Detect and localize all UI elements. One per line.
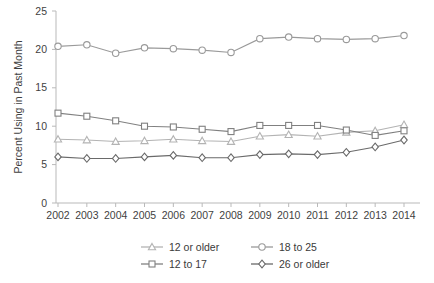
chart-legend: 12 or older18 to 2512 to 1726 or older <box>141 241 330 270</box>
line-chart-figure: 0510152025 20022003200420052006200720082… <box>0 0 434 283</box>
x-tick-label: 2004 <box>104 209 128 221</box>
data-point-square <box>84 113 90 119</box>
data-point-circle <box>314 35 320 41</box>
legend-item[interactable]: 26 or older <box>251 258 330 270</box>
data-point-square <box>343 127 349 133</box>
data-point-square <box>55 110 61 116</box>
data-point-circle <box>343 36 349 42</box>
x-tick-label: 2014 <box>392 209 416 221</box>
x-tick-label: 2010 <box>277 209 301 221</box>
x-tick-label: 2006 <box>162 209 186 221</box>
data-point-square <box>315 122 321 128</box>
data-point-diamond <box>372 143 378 151</box>
x-tick-label: 2012 <box>335 209 359 221</box>
data-point-diamond <box>314 151 320 159</box>
data-point-diamond <box>343 149 349 157</box>
data-point-square <box>199 126 205 132</box>
data-point-square <box>113 118 119 124</box>
data-point-square <box>142 123 148 129</box>
data-point-square <box>149 261 155 267</box>
y-tick-label: 20 <box>35 43 47 55</box>
legend-label: 12 to 17 <box>169 258 207 270</box>
x-tick-label: 2009 <box>248 209 272 221</box>
data-point-square <box>286 122 292 128</box>
series-18-to-25 <box>55 32 407 56</box>
x-tick-label: 2008 <box>219 209 243 221</box>
legend-label: 18 to 25 <box>279 241 317 253</box>
chart-container: 0510152025 20022003200420052006200720082… <box>0 0 434 283</box>
x-tick-label: 2005 <box>133 209 157 221</box>
data-point-diamond <box>257 151 263 159</box>
y-axis-title: Percent Using in Past Month <box>12 40 24 173</box>
series-12-to-17 <box>55 110 407 138</box>
data-point-circle <box>55 43 61 49</box>
data-point-diamond <box>84 155 90 163</box>
axis-group <box>52 11 420 207</box>
data-point-diamond <box>285 150 291 158</box>
data-point-circle <box>112 50 118 56</box>
y-tick-label: 15 <box>35 81 47 93</box>
data-point-square <box>257 122 263 128</box>
data-point-circle <box>285 34 291 40</box>
x-tick-label: 2011 <box>306 209 329 221</box>
x-tick-label: 2007 <box>190 209 214 221</box>
data-point-circle <box>228 49 234 55</box>
x-tick-label: 2002 <box>46 209 70 221</box>
data-point-diamond <box>170 152 176 160</box>
data-point-square <box>372 132 378 138</box>
y-tick-label: 0 <box>41 197 47 209</box>
y-tick-label: 5 <box>41 158 47 170</box>
data-point-diamond <box>228 154 234 162</box>
legend-item[interactable]: 18 to 25 <box>251 241 317 253</box>
legend-label: 26 or older <box>279 258 330 270</box>
data-point-circle <box>259 244 265 250</box>
legend-label: 12 or older <box>169 241 220 253</box>
legend-item[interactable]: 12 to 17 <box>141 258 207 270</box>
legend-item[interactable]: 12 or older <box>141 241 220 253</box>
data-point-diamond <box>112 155 118 163</box>
y-tick-label: 25 <box>35 5 47 17</box>
data-point-circle <box>199 47 205 53</box>
data-point-circle <box>372 35 378 41</box>
data-point-square <box>228 129 234 135</box>
data-point-square <box>170 124 176 130</box>
data-point-circle <box>84 42 90 48</box>
y-tick-label: 10 <box>35 120 47 132</box>
y-axis-tick-labels: 0510152025 <box>35 5 47 209</box>
data-point-circle <box>401 32 407 38</box>
data-point-circle <box>170 45 176 51</box>
data-point-square <box>401 128 407 134</box>
data-point-triangle <box>400 121 407 127</box>
data-point-circle <box>257 35 263 41</box>
data-point-diamond <box>141 153 147 161</box>
x-axis-tick-labels: 2002200320042005200620072008200920102011… <box>46 209 416 221</box>
x-tick-label: 2013 <box>363 209 387 221</box>
data-point-circle <box>141 45 147 51</box>
data-point-diamond <box>259 260 265 268</box>
data-point-diamond <box>401 136 407 144</box>
data-point-diamond <box>199 154 205 162</box>
x-tick-label: 2003 <box>75 209 99 221</box>
series-group <box>54 32 407 162</box>
